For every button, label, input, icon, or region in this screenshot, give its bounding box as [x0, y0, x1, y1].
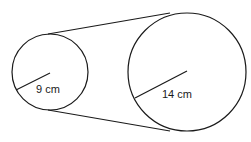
- small-radius-label: 9 cm: [36, 83, 60, 95]
- diagram-canvas: 9 cm 14 cm: [0, 0, 251, 142]
- top-tangent-line: [48, 13, 170, 34]
- large-radius-label: 14 cm: [162, 88, 192, 100]
- pulley-diagram: 9 cm 14 cm: [0, 0, 251, 142]
- bottom-tangent-line: [48, 110, 170, 131]
- large-circle: [128, 13, 246, 131]
- small-circle: [12, 34, 88, 110]
